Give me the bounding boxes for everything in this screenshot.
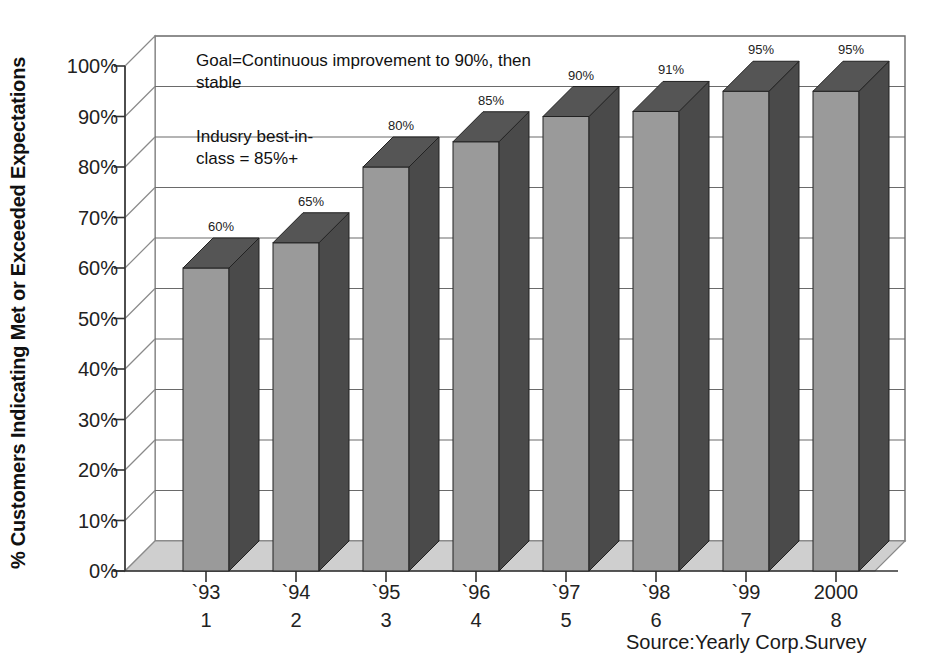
x-tick-label-index: 5 [560, 609, 571, 632]
y-tick-label: 40% [40, 358, 118, 381]
bar-column [273, 213, 349, 571]
y-axis-title: % Customers Indicating Met or Exceeded E… [7, 33, 37, 593]
x-tick-label-year: 2000 [814, 581, 859, 604]
annotation-best-in-class: Indusry best-in- class = 85%+ [196, 126, 426, 170]
source-note: Source:Yearly Corp.Survey [626, 631, 867, 654]
x-tick-label-year: `95 [372, 581, 401, 604]
y-tick-label: 70% [40, 206, 118, 229]
x-tick-label-year: `94 [282, 581, 311, 604]
bar-front-face [453, 142, 499, 571]
x-tick-label-year: `96 [462, 581, 491, 604]
bar-value-label: 95% [748, 42, 774, 57]
bar-front-face [723, 91, 769, 571]
bar-column [633, 81, 709, 571]
bar-side-face [679, 81, 709, 571]
x-tick-label-year: `98 [642, 581, 671, 604]
bar-value-label: 85% [478, 93, 504, 108]
bar-side-face [499, 112, 529, 571]
bar-side-face [319, 213, 349, 571]
y-tick-label: 60% [40, 257, 118, 280]
bar-side-face [409, 137, 439, 571]
y-tick-label: 80% [40, 156, 118, 179]
x-tick-label-index: 7 [740, 609, 751, 632]
bar-side-face [589, 87, 619, 572]
plot-area-3d [0, 0, 928, 670]
bar-front-face [813, 91, 859, 571]
x-tick-label-index: 2 [290, 609, 301, 632]
bar-side-face [859, 61, 889, 571]
bar-chart: % Customers Indicating Met or Exceeded E… [0, 0, 928, 670]
bar-value-label: 95% [838, 42, 864, 57]
bar-column [183, 238, 259, 571]
x-tick-label-index: 3 [380, 609, 391, 632]
y-tick-label: 90% [40, 105, 118, 128]
bar-column [363, 137, 439, 571]
bar-front-face [183, 268, 229, 571]
bar-front-face [633, 111, 679, 571]
x-tick-label-year: `99 [732, 581, 761, 604]
bar-front-face [543, 117, 589, 572]
x-tick-label-index: 1 [200, 609, 211, 632]
x-tick-label-year: `97 [552, 581, 581, 604]
bar-value-label: 91% [658, 62, 684, 77]
bar-column [813, 61, 889, 571]
x-tick-label-index: 6 [650, 609, 661, 632]
y-tick-label: 10% [40, 509, 118, 532]
x-tick-label-index: 8 [830, 609, 841, 632]
bar-value-label: 65% [298, 194, 324, 209]
y-tick-label: 50% [40, 307, 118, 330]
y-tick-label: 100% [40, 55, 118, 78]
bar-front-face [363, 167, 409, 571]
bar-value-label: 60% [208, 219, 234, 234]
y-tick-label: 30% [40, 408, 118, 431]
y-tick-label: 0% [40, 560, 118, 583]
bar-column [543, 87, 619, 572]
x-axis [112, 571, 898, 582]
y-tick-labels: 100%90%80%70%60%50%40%30%20%10%0% [40, 0, 118, 670]
bar-front-face [273, 243, 319, 571]
annotation-goal: Goal=Continuous improvement to 90%, then… [196, 50, 626, 94]
bar-side-face [229, 238, 259, 571]
x-tick-label-year: `93 [192, 581, 221, 604]
y-tick-label: 20% [40, 459, 118, 482]
bar-side-face [769, 61, 799, 571]
x-tick-label-index: 4 [470, 609, 481, 632]
bar-column [453, 112, 529, 571]
bar-column [723, 61, 799, 571]
